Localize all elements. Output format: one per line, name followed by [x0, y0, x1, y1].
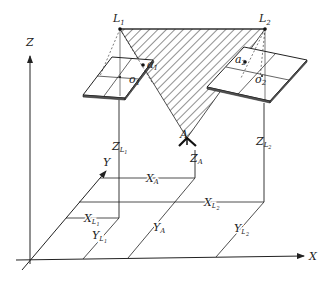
z-axis-label: Z	[25, 36, 34, 49]
y-A-line	[128, 178, 195, 258]
label-X-L1: XL1	[83, 212, 100, 227]
exposure-station-L2	[263, 27, 267, 31]
label-Z-L2: ZL2	[255, 135, 272, 150]
label-Z-A: ZA	[189, 152, 203, 166]
label-Y-L1: YL1	[92, 229, 107, 244]
exposure-station-L1	[118, 27, 122, 31]
label-X-A: XA	[145, 172, 159, 186]
image-point-a1	[141, 63, 145, 67]
label-Y-L2: YL2	[234, 222, 249, 237]
label-X-L2: XL2	[203, 196, 220, 211]
stereo-photogrammetry-diagram: Z X Y L1 L2 a1 a2 o1 o2 A ZL1 ZA ZL2 XA …	[0, 0, 324, 284]
x-axis	[16, 256, 304, 260]
diagram-canvas: Z X Y L1 L2 a1 a2 o1 o2 A ZL1 ZA ZL2 XA …	[0, 0, 324, 284]
principal-point-o1	[119, 76, 121, 78]
label-A: A	[179, 128, 188, 141]
y-axis-label: Y	[103, 156, 112, 169]
label-L1: L1	[112, 12, 125, 27]
label-Y-A: YA	[153, 221, 165, 235]
label-Z-L1: ZL1	[111, 140, 128, 155]
label-L2: L2	[258, 12, 271, 27]
x-axis-label: X	[308, 250, 318, 263]
